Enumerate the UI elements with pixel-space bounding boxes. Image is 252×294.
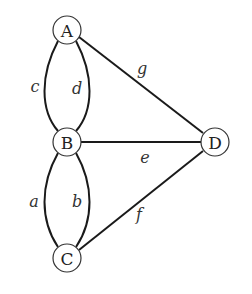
node-label-c: C	[60, 249, 73, 269]
node-label-a: A	[60, 21, 74, 41]
edge-label-g: g	[137, 59, 147, 78]
edge-a	[45, 153, 59, 247]
edge-label-f: f	[135, 205, 145, 224]
edge-label-e: e	[140, 148, 149, 167]
edge-label-c: c	[31, 77, 40, 96]
edge-label-b: b	[72, 192, 82, 211]
node-label-d: D	[208, 133, 222, 153]
node-b: B	[53, 128, 81, 156]
edge-label-a: a	[29, 192, 39, 211]
graph-diagram: c d a b g e f A B C D	[0, 0, 252, 294]
node-d: D	[201, 128, 229, 156]
edge-c	[45, 41, 59, 131]
node-c: C	[53, 244, 81, 272]
node-label-b: B	[61, 133, 74, 153]
edge-label-d: d	[72, 79, 82, 98]
node-a: A	[53, 16, 81, 44]
edge-g	[79, 37, 203, 133]
